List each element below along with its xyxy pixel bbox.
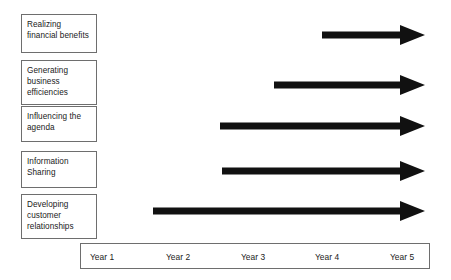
arrow-generating-business-efficiencies bbox=[274, 75, 425, 95]
arrow-developing-customer-relationships bbox=[153, 201, 425, 221]
arrow-influencing-the-agenda bbox=[220, 116, 425, 136]
benefits-timeline-diagram: Realizing financial benefits Generating … bbox=[0, 0, 451, 280]
year-tick-5: Year 5 bbox=[390, 252, 414, 262]
timeline-axis: Year 1 Year 2 Year 3 Year 4 Year 5 bbox=[80, 243, 430, 269]
year-tick-3: Year 3 bbox=[241, 252, 265, 262]
year-tick-2: Year 2 bbox=[166, 252, 190, 262]
arrow-realizing-financial-benefits bbox=[322, 25, 425, 45]
year-tick-1: Year 1 bbox=[90, 252, 114, 262]
arrow-information-sharing bbox=[222, 161, 425, 181]
arrow-layer bbox=[0, 0, 451, 280]
year-tick-4: Year 4 bbox=[315, 252, 339, 262]
